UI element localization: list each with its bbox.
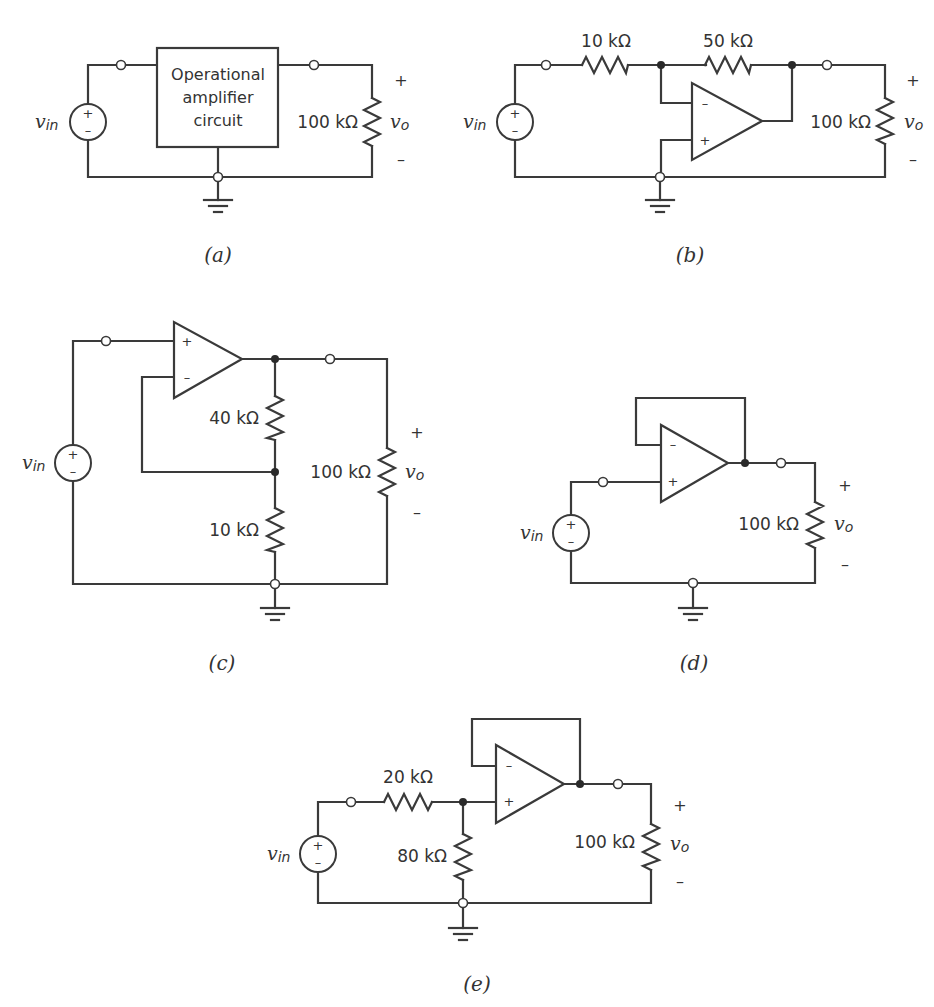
caption-d: (d) <box>680 651 708 675</box>
vo-label: vo <box>904 110 923 133</box>
load-resistor-icon <box>807 502 823 548</box>
resistor-20k-label: 20 kΩ <box>383 767 433 787</box>
caption-a: (a) <box>204 243 232 267</box>
opamp-icon: – + <box>496 745 564 823</box>
svg-text:–: – <box>70 464 77 479</box>
svg-text:+: + <box>700 133 711 148</box>
resistor-80k-label: 80 kΩ <box>397 846 447 866</box>
voltage-source-icon: + – <box>300 836 336 872</box>
feedback-resistor-40k-icon <box>267 396 283 440</box>
vo-label: vo <box>670 832 689 855</box>
svg-text:+: + <box>83 106 94 121</box>
panel-d: – + + – vin 100 kΩ + vo – (d) <box>520 398 853 675</box>
svg-text:+: + <box>410 423 423 442</box>
caption-b: (b) <box>676 243 704 267</box>
vin-label: vin <box>22 451 46 474</box>
svg-text:+: + <box>68 447 79 462</box>
load-resistor-label: 100 kΩ <box>310 462 371 482</box>
vo-label: vo <box>834 512 853 535</box>
svg-text:–: – <box>676 872 684 891</box>
series-resistor-20k-icon <box>384 794 432 810</box>
svg-text:–: – <box>841 555 849 574</box>
load-resistor-label: 100 kΩ <box>738 514 799 534</box>
voltage-source-icon: + – <box>55 445 91 481</box>
circuit-figure: Operational amplifier circuit + – vin 10… <box>0 0 934 1007</box>
load-resistor-icon <box>877 98 893 144</box>
svg-text:–: – <box>413 503 421 522</box>
opamp-icon: – + <box>661 425 728 502</box>
load-resistor-label: 100 kΩ <box>297 112 358 132</box>
svg-text:–: – <box>85 123 92 138</box>
svg-text:–: – <box>506 758 513 773</box>
block-label-line3: circuit <box>193 111 242 130</box>
feedback-resistor-label: 50 kΩ <box>703 31 753 51</box>
voltage-source-icon: + – <box>497 104 533 140</box>
block-label-line2: amplifier <box>183 88 254 107</box>
ground-icon <box>646 200 674 212</box>
caption-e: (e) <box>463 972 490 996</box>
vo-label: vo <box>390 110 409 133</box>
vin-label: vin <box>463 110 487 133</box>
shunt-resistor-80k-icon <box>455 834 471 880</box>
opamp-icon: – + <box>692 83 762 160</box>
svg-text:–: – <box>702 96 709 111</box>
svg-text:–: – <box>568 534 575 549</box>
opamp-icon: + – <box>174 322 242 398</box>
ground-icon <box>679 608 707 620</box>
panel-a: Operational amplifier circuit + – vin 10… <box>35 48 409 267</box>
svg-text:+: + <box>313 838 324 853</box>
voltage-source-icon: + – <box>553 515 589 551</box>
input-terminal <box>117 61 126 70</box>
feedback-resistor-icon <box>705 57 751 73</box>
panel-b: 10 kΩ 50 kΩ – + + – vin 100 kΩ + vo – <box>463 31 923 267</box>
panel-e: 20 kΩ 80 kΩ – + + – vin 100 kΩ + vo – (e… <box>267 719 689 996</box>
load-resistor-label: 100 kΩ <box>574 832 635 852</box>
block-label-line1: Operational <box>171 65 265 84</box>
resistor-40k-label: 40 kΩ <box>209 408 259 428</box>
panel-c: + – 40 kΩ 10 kΩ 100 kΩ + – vin + vo – <box>22 322 424 675</box>
svg-text:–: – <box>184 370 191 385</box>
vin-label: vin <box>35 110 59 133</box>
ground-resistor-10k-icon <box>267 508 283 552</box>
svg-text:+: + <box>394 71 407 90</box>
svg-text:+: + <box>510 106 521 121</box>
svg-text:–: – <box>397 150 405 169</box>
input-resistor-label: 10 kΩ <box>581 31 631 51</box>
caption-c: (c) <box>209 651 236 675</box>
svg-text:+: + <box>566 517 577 532</box>
svg-text:+: + <box>673 796 686 815</box>
ground-icon <box>261 608 289 620</box>
ground-terminal <box>214 173 223 182</box>
resistor-10k-label: 10 kΩ <box>209 520 259 540</box>
svg-text:–: – <box>512 123 519 138</box>
load-resistor-icon <box>364 98 380 146</box>
vin-label: vin <box>520 521 544 544</box>
ground-icon <box>204 200 232 212</box>
svg-text:+: + <box>668 474 679 489</box>
voltage-source-icon: + – <box>70 104 106 140</box>
svg-text:–: – <box>315 855 322 870</box>
svg-text:–: – <box>670 437 677 452</box>
vo-label: vo <box>405 460 424 483</box>
svg-text:+: + <box>906 71 919 90</box>
output-terminal <box>310 61 319 70</box>
svg-text:–: – <box>909 150 917 169</box>
svg-text:+: + <box>838 476 851 495</box>
load-resistor-icon <box>379 448 395 496</box>
load-resistor-label: 100 kΩ <box>810 112 871 132</box>
input-resistor-icon <box>582 57 628 73</box>
svg-text:+: + <box>182 334 193 349</box>
svg-text:+: + <box>504 794 515 809</box>
vin-label: vin <box>267 842 291 865</box>
load-resistor-icon <box>643 824 659 870</box>
ground-icon <box>449 928 477 940</box>
